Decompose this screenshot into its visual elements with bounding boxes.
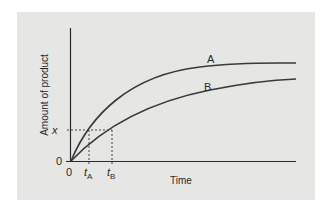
tB-label: tB	[107, 166, 115, 181]
x-level-label: x	[51, 124, 58, 136]
y-axis-title: Amount of product	[39, 54, 50, 136]
curve-b-label: B	[204, 81, 211, 93]
curve-b	[71, 79, 296, 161]
tA-label: tA	[84, 166, 93, 181]
curve-a-label: A	[207, 53, 215, 65]
chart: A B x 0 0 tA tB Time Amount of product	[0, 0, 332, 206]
origin-y-label: 0	[56, 155, 62, 167]
x-axis-title: Time	[170, 175, 192, 186]
curve-a	[71, 63, 296, 161]
origin-x-label: 0	[66, 166, 72, 178]
